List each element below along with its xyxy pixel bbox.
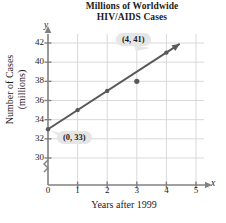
data-point (105, 89, 109, 93)
y-tick-label: 40 (26, 56, 44, 66)
annotation-point-0-33: (0, 33) (57, 131, 92, 144)
annotation-point-4-41: (4, 41) (116, 33, 151, 46)
data-point (164, 50, 168, 54)
x-tick-label: 3 (130, 185, 144, 195)
x-tick-label: 0 (41, 185, 55, 195)
y-tick-label: 42 (26, 37, 44, 47)
chart-figure: Millions of Worldwide HIV/AIDS Cases Num… (0, 0, 226, 223)
x-tick-label: 2 (100, 185, 114, 195)
x-tick-label: 4 (159, 185, 173, 195)
y-tick-label: 32 (26, 133, 44, 143)
y-tick-label: 38 (26, 75, 44, 85)
y-tick-label: 34 (26, 114, 44, 124)
data-point (134, 79, 139, 84)
y-tick-label: 30 (26, 152, 44, 162)
x-tick-labels: 012345 (0, 185, 226, 199)
data-point (46, 127, 50, 131)
y-tick-label: 36 (26, 95, 44, 105)
x-tick-label: 1 (71, 185, 85, 195)
x-tick-label: 5 (189, 185, 203, 195)
y-axis-arrowhead (45, 26, 52, 33)
trend-line (48, 44, 180, 129)
data-point (75, 108, 79, 112)
